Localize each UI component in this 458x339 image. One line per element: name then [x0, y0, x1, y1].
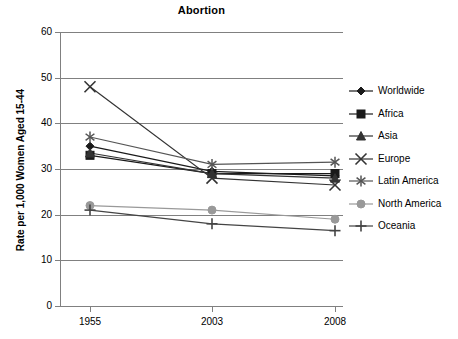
legend-diamond-icon	[348, 84, 374, 98]
data-point-diamond	[357, 87, 365, 95]
legend-item-europe[interactable]: Europe	[348, 152, 458, 175]
gridline	[60, 169, 343, 170]
abortion-rate-line-chart: Abortion Rate per 1,000 Women Aged 15-44…	[0, 0, 458, 339]
y-tick-label: 10	[12, 255, 52, 265]
y-tick-label: 50	[12, 73, 52, 83]
y-tick-label: 0	[12, 301, 52, 311]
y-tick-label: 20	[12, 210, 52, 220]
y-tick-label: 40	[12, 118, 52, 128]
legend-item-north-america[interactable]: North America	[348, 197, 458, 220]
legend-square-icon	[348, 107, 374, 121]
y-tick-label: 60	[12, 27, 52, 37]
legend-label: Asia	[378, 130, 397, 142]
y-tick-mark	[55, 32, 60, 33]
legend-label: Worldwide	[378, 85, 425, 97]
gridline	[60, 78, 343, 79]
gridline	[60, 306, 343, 307]
plot-area	[60, 32, 343, 306]
x-tick-label: 1955	[60, 316, 120, 327]
legend-plus-icon	[348, 219, 374, 233]
gridline	[60, 123, 343, 124]
legend-label: Oceania	[378, 220, 415, 232]
data-point-plus	[356, 221, 367, 232]
gridline	[60, 215, 343, 216]
chart-title: Abortion	[60, 4, 343, 16]
y-tick-label: 30	[12, 164, 52, 174]
gridline	[60, 32, 343, 33]
legend-triangle-icon	[348, 129, 374, 143]
y-tick-mark	[55, 169, 60, 170]
legend-item-worldwide[interactable]: Worldwide	[348, 84, 458, 107]
x-tick-mark	[212, 306, 213, 312]
y-tick-mark	[55, 78, 60, 79]
legend-item-africa[interactable]: Africa	[348, 107, 458, 130]
legend-item-latin-america[interactable]: Latin America	[348, 174, 458, 197]
x-tick-mark	[335, 306, 336, 312]
legend-label: North America	[378, 198, 441, 210]
y-tick-mark	[55, 123, 60, 124]
legend-label: Africa	[378, 108, 404, 120]
legend-x-cross-icon	[348, 152, 374, 166]
legend-item-asia[interactable]: Asia	[348, 129, 458, 152]
data-point-circle	[357, 200, 365, 208]
chart-legend: WorldwideAfricaAsiaEuropeLatin AmericaNo…	[348, 84, 458, 242]
y-tick-mark	[55, 260, 60, 261]
data-point-square	[357, 110, 365, 118]
legend-circle-icon	[348, 197, 374, 211]
x-tick-label: 2003	[182, 316, 242, 327]
legend-label: Latin America	[378, 175, 439, 187]
gridline	[60, 260, 343, 261]
legend-item-oceania[interactable]: Oceania	[348, 219, 458, 242]
y-tick-mark	[55, 306, 60, 307]
x-tick-label: 2008	[305, 316, 365, 327]
legend-asterisk-icon	[348, 174, 374, 188]
legend-label: Europe	[378, 153, 410, 165]
x-tick-mark	[90, 306, 91, 312]
y-tick-mark	[55, 215, 60, 216]
